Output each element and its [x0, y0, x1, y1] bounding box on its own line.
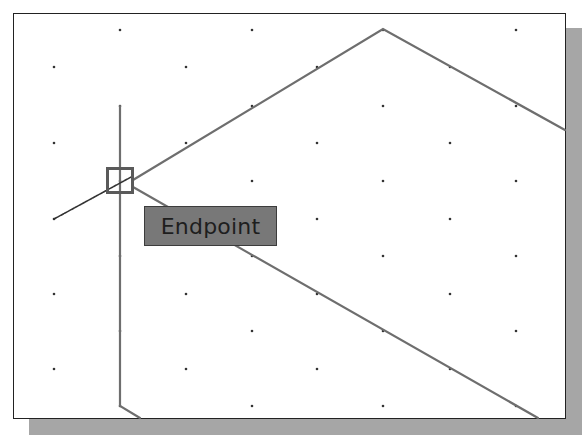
grid-dot [449, 293, 452, 296]
grid-dot [515, 105, 518, 108]
grid-dot [382, 405, 385, 408]
grid-dot [382, 105, 385, 108]
snap-tooltip-label: Endpoint [161, 214, 261, 239]
grid-dot [251, 180, 254, 183]
grid-dot [251, 330, 254, 333]
grid-dot [251, 405, 254, 408]
grid-dot [316, 218, 319, 221]
grid-dot [449, 142, 452, 145]
grid-dot [515, 180, 518, 183]
grid-dot [53, 66, 56, 69]
grid-dots [53, 29, 518, 408]
snap-tooltip: Endpoint [144, 206, 277, 246]
grid-dot [185, 293, 188, 296]
grid-dot [382, 255, 385, 258]
grid-dot [515, 330, 518, 333]
grid-dot [316, 142, 319, 145]
rubber-band-line [54, 176, 133, 219]
geometry [54, 29, 565, 418]
cad-drawing-area[interactable]: Endpoint [0, 0, 586, 441]
vertical-line[interactable] [120, 106, 140, 418]
grid-dot [119, 29, 122, 32]
grid-dot [185, 368, 188, 371]
grid-dot [53, 368, 56, 371]
grid-dot [449, 218, 452, 221]
grid-dot [53, 142, 56, 145]
grid-dot [515, 29, 518, 32]
drawing-canvas[interactable] [0, 0, 586, 441]
upper-polyline[interactable] [133, 29, 565, 180]
grid-dot [316, 368, 319, 371]
grid-dot [251, 29, 254, 32]
grid-dot [53, 293, 56, 296]
grid-dot [382, 180, 385, 183]
grid-dot [185, 66, 188, 69]
grid-dot [185, 142, 188, 145]
grid-dot [515, 255, 518, 258]
